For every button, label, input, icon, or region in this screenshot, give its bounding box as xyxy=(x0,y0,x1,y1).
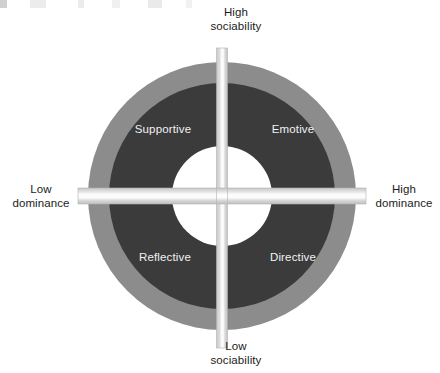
quadrant-reflective-text: Reflective xyxy=(139,251,191,263)
axis-label-low-dominance: Low dominance xyxy=(2,183,80,210)
axis-label-low-sociability: Low sociability xyxy=(176,340,296,367)
axis-low-dominance-line1: Low xyxy=(2,183,80,197)
axis-label-high-sociability: High sociability xyxy=(176,6,296,33)
quadrant-emotive-text: Emotive xyxy=(272,123,315,135)
axis-low-dominance-line2: dominance xyxy=(2,197,80,211)
quadrant-label-reflective: Reflective xyxy=(110,251,220,263)
axis-low-sociability-line1: Low xyxy=(176,340,296,354)
quadrant-label-emotive: Emotive xyxy=(238,123,348,135)
diagram-canvas: Supportive Emotive Reflective Directive … xyxy=(0,0,440,373)
axis-low-sociability-line2: sociability xyxy=(176,354,296,368)
quadrant-label-directive: Directive xyxy=(238,251,348,263)
quadrant-label-supportive: Supportive xyxy=(108,123,218,135)
horizontal-axis-band xyxy=(78,188,366,204)
axis-high-sociability-line2: sociability xyxy=(176,20,296,34)
quadrant-directive-text: Directive xyxy=(270,251,316,263)
axis-high-dominance-line2: dominance xyxy=(368,197,440,211)
quadrant-supportive-text: Supportive xyxy=(135,123,191,135)
axis-high-sociability-line1: High xyxy=(176,6,296,20)
axis-label-high-dominance: High dominance xyxy=(368,183,440,210)
axis-high-dominance-line1: High xyxy=(368,183,440,197)
